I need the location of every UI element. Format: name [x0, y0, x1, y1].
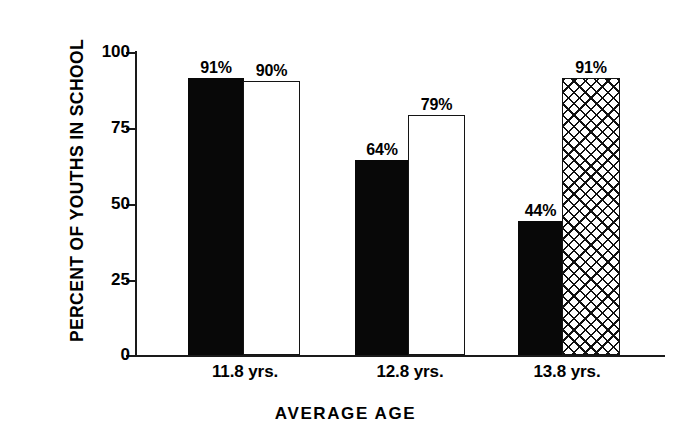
y-tick-label: 100: [102, 42, 130, 62]
bar-value-label: 44%: [525, 202, 556, 220]
x-group-label-1: 11.8 yrs.: [212, 362, 278, 382]
y-tick-label: 50: [111, 194, 130, 214]
bar-g3-solid: 44%: [518, 221, 563, 355]
x-group-label-3: 13.8 yrs.: [533, 362, 600, 382]
bar-g2-solid: 64%: [355, 160, 409, 355]
bar-chart-figure: PERCENT OF YOUTHS IN SCHOOL 100 75 50 25…: [0, 0, 691, 442]
bar-value-label: 79%: [421, 96, 452, 114]
bar-g1-solid: 91%: [188, 78, 244, 355]
bar-value-label: 91%: [200, 59, 231, 77]
y-axis-line: [135, 51, 137, 355]
x-group-label-2: 12.8 yrs.: [376, 362, 443, 382]
y-tick-label: 25: [111, 270, 130, 290]
bar-value-label: 90%: [256, 62, 287, 80]
x-axis-title: AVERAGE AGE: [0, 404, 691, 424]
plot-area: 100 75 50 25 0 91% 90% 11.8 yrs. 64%: [135, 40, 665, 356]
y-axis-title: PERCENT OF YOUTHS IN SCHOOL: [67, 21, 88, 361]
bar-value-label: 91%: [575, 59, 606, 77]
bar-g1-open: 90%: [243, 81, 300, 355]
bar-value-label: 64%: [366, 141, 397, 159]
bar-g3-hatch: 91%: [562, 78, 620, 355]
bar-g2-open: 79%: [408, 115, 465, 355]
y-tick-label: 0: [121, 345, 130, 365]
y-tick-label: 75: [111, 118, 130, 138]
x-axis-line: [135, 355, 665, 357]
